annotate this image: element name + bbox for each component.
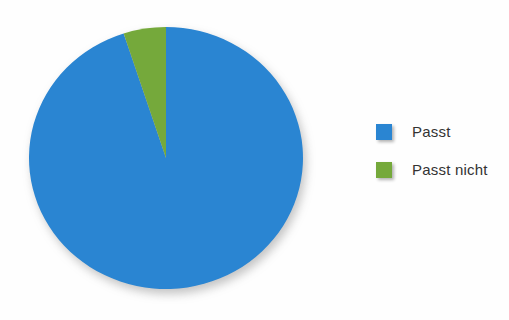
legend-swatch-passt [376, 124, 392, 140]
legend-label-passt: Passt [412, 123, 451, 140]
legend-item-passt: Passt [376, 123, 488, 140]
legend-swatch-passt-nicht [376, 162, 392, 178]
legend: Passt Passt nicht [376, 123, 488, 178]
pie-chart-figure: Passt Passt nicht [0, 0, 509, 320]
legend-label-passt-nicht: Passt nicht [412, 161, 488, 178]
legend-item-passt-nicht: Passt nicht [376, 161, 488, 178]
